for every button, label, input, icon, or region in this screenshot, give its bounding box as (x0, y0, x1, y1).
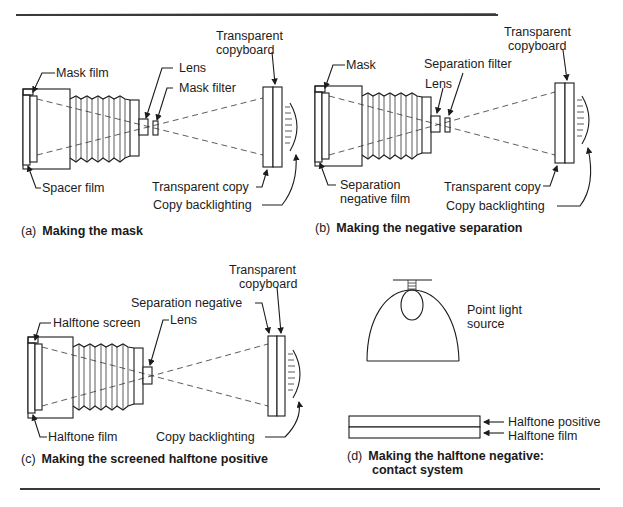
label-mask: Mask (346, 58, 376, 72)
label-copyboard-1: Transparent (229, 263, 296, 277)
panel-a-title: Making the mask (42, 224, 143, 238)
panel-a-caption: (a)Making the mask (21, 224, 143, 239)
panel-d-title-2: contact system (372, 463, 463, 477)
label-mask-filter: Mask filter (179, 81, 236, 95)
panel-c-caption: (c)Making the screened halftone positive (21, 452, 268, 467)
label-separation-1: Separation (340, 178, 400, 192)
label-point-light-1: Point light (467, 303, 522, 317)
panel-d-caption: (d)Making the halftone negative: (347, 449, 544, 464)
label-halftone-film: Halftone film (508, 429, 577, 443)
label-halftone-screen: Halftone screen (53, 316, 141, 330)
label-transparent-copy: Transparent copy (444, 180, 541, 194)
label-copyboard-1: Transparent (216, 29, 283, 43)
label-spacer-film: Spacer film (42, 181, 105, 195)
label-separation-negative: Separation negative (131, 296, 242, 310)
label-copy-backlighting: Copy backlighting (446, 199, 545, 213)
label-lens: Lens (179, 61, 206, 75)
label-copy-backlighting: Copy backlighting (153, 198, 252, 212)
panel-b-tag: (b) (315, 221, 330, 235)
panel-c-tag: (c) (21, 452, 36, 466)
panel-d-title-1: Making the halftone negative: (368, 449, 544, 463)
label-separation-2: negative film (340, 192, 410, 206)
label-copyboard-1: Transparent (504, 25, 571, 39)
label-copyboard-2: copyboard (508, 39, 566, 53)
panel-b-caption: (b)Making the negative separation (315, 221, 522, 236)
panel-d-caption-2: contact system (372, 463, 463, 478)
label-copyboard-2: copyboard (216, 43, 274, 57)
label-separation-filter: Separation filter (424, 57, 512, 71)
label-halftone-film: Halftone film (48, 430, 117, 444)
label-lens: Lens (425, 77, 452, 91)
label-point-light-2: source (467, 317, 505, 331)
panel-d-tag: (d) (347, 449, 362, 463)
label-copyboard-2: copyboard (239, 277, 297, 291)
panel-b-title: Making the negative separation (336, 221, 522, 235)
label-lens: Lens (170, 313, 197, 327)
panel-c-title: Making the screened halftone positive (42, 452, 268, 466)
label-mask-film: Mask film (56, 66, 109, 80)
label-transparent-copy: Transparent copy (152, 180, 249, 194)
label-copy-backlighting: Copy backlighting (156, 430, 255, 444)
label-halftone-positive: Halftone positive (508, 415, 600, 429)
panel-a-tag: (a) (21, 224, 36, 238)
